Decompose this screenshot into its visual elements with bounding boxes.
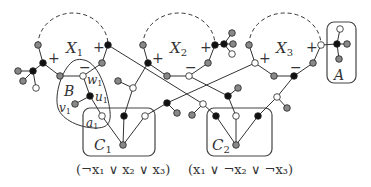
a-box-label: A	[332, 67, 344, 83]
reduction-diagram: X1 X2 X3 + + − + + − + + − B w1 u1 v1 a1…	[0, 0, 371, 187]
x2-plus-left: +	[152, 50, 164, 66]
x2-minus: −	[185, 59, 197, 75]
x1-plus-right: +	[93, 39, 105, 55]
c2-formula: (x₁ ∨ ¬x₂ ∨ ¬x₃)	[188, 162, 293, 177]
x3-label: X3	[275, 39, 293, 58]
a1-label: a1	[86, 116, 98, 131]
x3-minus: −	[290, 59, 302, 75]
x3-plus-left: +	[259, 50, 271, 66]
b-label: B	[63, 83, 74, 99]
x3-plus-right: +	[306, 39, 318, 55]
c1-formula: (¬x₁ ∨ x₂ ∨ x₃)	[76, 162, 170, 177]
x2-plus-right: +	[200, 39, 212, 55]
v1-label: v1	[59, 101, 71, 116]
x1-label: X1	[65, 39, 83, 58]
c1-label: C1	[94, 136, 112, 155]
c2-label: C2	[212, 136, 230, 155]
x1-plus-left: +	[48, 50, 60, 66]
x2-label: X2	[169, 39, 187, 58]
